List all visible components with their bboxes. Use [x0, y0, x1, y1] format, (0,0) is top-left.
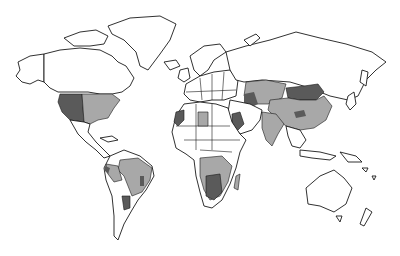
region-brazil-dark: [140, 176, 144, 186]
tasmania: [336, 216, 342, 222]
new-zealand: [360, 208, 372, 226]
alaska: [16, 54, 44, 84]
oceania: [300, 150, 376, 226]
canada: [44, 48, 134, 94]
region-eastern-us: [82, 94, 120, 124]
continental-europe: [184, 70, 238, 102]
australia: [306, 170, 352, 212]
world-map: [0, 0, 400, 256]
canadian-arctic-islands: [64, 30, 108, 46]
south-america: [104, 150, 154, 240]
asia: [226, 32, 386, 148]
region-madagascar: [234, 174, 240, 190]
indonesia: [300, 150, 336, 160]
region-libya: [198, 112, 208, 126]
caribbean: [100, 136, 118, 142]
north-america: [16, 16, 180, 158]
pacific-islands: [362, 168, 376, 180]
region-western-us: [58, 94, 84, 122]
iceland: [164, 60, 180, 70]
region-mongolia: [286, 84, 324, 100]
papua: [340, 152, 362, 162]
uk-ireland: [178, 68, 190, 82]
